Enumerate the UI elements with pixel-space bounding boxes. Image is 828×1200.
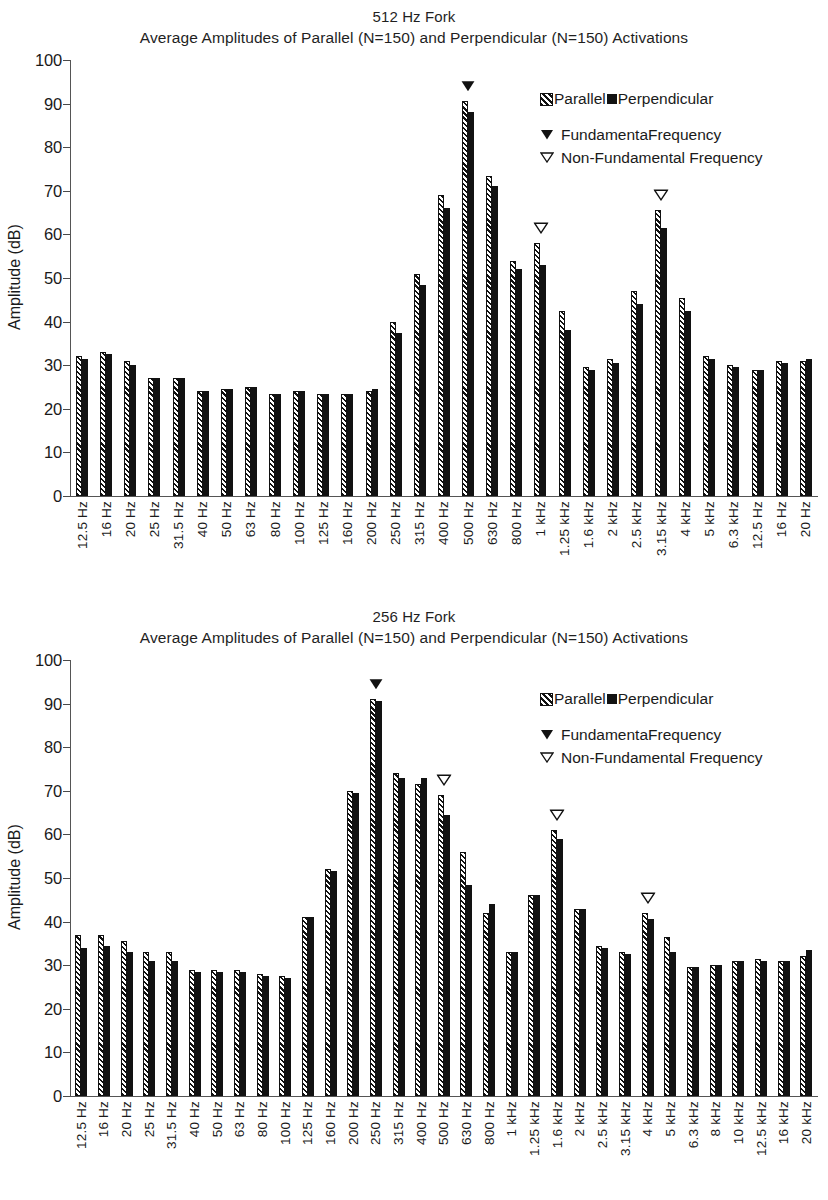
bar-perpendicular[interactable] — [444, 815, 450, 1096]
bar-group — [770, 60, 794, 496]
x-tick-cell: 315 Hz — [408, 501, 432, 556]
bar-perpendicular[interactable] — [806, 359, 812, 496]
bar-perpendicular[interactable] — [602, 948, 608, 1096]
bar-perpendicular[interactable] — [203, 391, 209, 496]
bar-perpendicular[interactable] — [540, 265, 546, 496]
bar-group — [387, 660, 410, 1096]
bar-perpendicular[interactable] — [127, 952, 133, 1096]
bar-group — [408, 60, 432, 496]
x-tick-cell: 4 kHz — [636, 1101, 659, 1156]
bar-perpendicular[interactable] — [733, 367, 739, 496]
fundamental-frequency-marker-icon — [461, 80, 476, 92]
bar-perpendicular[interactable] — [172, 961, 178, 1096]
bar-group — [70, 60, 94, 496]
bar-perpendicular[interactable] — [512, 952, 518, 1096]
bar-perpendicular[interactable] — [263, 976, 269, 1096]
bar-perpendicular[interactable] — [285, 978, 291, 1096]
bar-perpendicular[interactable] — [106, 354, 112, 496]
bar-perpendicular[interactable] — [589, 370, 595, 496]
bar-perpendicular[interactable] — [613, 363, 619, 496]
y-tick-mark — [63, 1009, 70, 1010]
bar-perpendicular[interactable] — [195, 972, 201, 1096]
bar-perpendicular[interactable] — [353, 793, 359, 1096]
x-tick-label: 200 Hz — [364, 501, 379, 545]
x-tick-label: 125 Hz — [300, 1101, 315, 1145]
bar-group — [342, 660, 365, 1096]
x-tick-cell: 1.25 kHz — [523, 1101, 546, 1156]
x-tick-label: 20 Hz — [119, 1101, 134, 1137]
bar-perpendicular[interactable] — [331, 871, 337, 1096]
y-tick-label: 80 — [20, 738, 62, 757]
bar-group — [70, 660, 93, 1096]
bar-perpendicular[interactable] — [154, 378, 160, 496]
bar-perpendicular[interactable] — [761, 961, 767, 1096]
x-tick-label: 8 kHz — [708, 1101, 723, 1137]
bar-perpendicular[interactable] — [758, 370, 764, 496]
x-tick-cell: 12.5 Hz — [746, 501, 770, 556]
bar-perpendicular[interactable] — [149, 961, 155, 1096]
perpendicular-swatch-icon — [607, 694, 617, 704]
bar-perpendicular[interactable] — [275, 394, 281, 496]
bar-perpendicular[interactable] — [648, 919, 654, 1096]
bar-perpendicular[interactable] — [784, 961, 790, 1096]
bar-perpendicular[interactable] — [806, 950, 812, 1096]
x-tick-label: 2.5 kHz — [595, 1101, 610, 1148]
bar-perpendicular[interactable] — [421, 778, 427, 1096]
bar-perpendicular[interactable] — [565, 330, 571, 496]
x-tick-label: 16 Hz — [96, 1101, 111, 1137]
bar-perpendicular[interactable] — [227, 389, 233, 496]
bar-perpendicular[interactable] — [782, 363, 788, 496]
bar-perpendicular[interactable] — [466, 885, 472, 1096]
bar-perpendicular[interactable] — [534, 895, 540, 1096]
bar-perpendicular[interactable] — [82, 359, 88, 496]
x-tick-cell: 40 Hz — [183, 1101, 206, 1156]
bar-perpendicular[interactable] — [738, 961, 744, 1096]
bar-perpendicular[interactable] — [625, 954, 631, 1096]
bar-perpendicular[interactable] — [251, 387, 257, 496]
bar-perpendicular[interactable] — [376, 701, 382, 1096]
bar-perpendicular[interactable] — [709, 359, 715, 496]
non-fundamental-triangle-icon — [540, 752, 554, 763]
bar-perpendicular[interactable] — [557, 839, 563, 1096]
bar-perpendicular[interactable] — [396, 333, 402, 497]
bar-perpendicular[interactable] — [516, 269, 522, 496]
bar-group — [311, 60, 335, 496]
bar-perpendicular[interactable] — [81, 948, 87, 1096]
x-tick-label: 25 Hz — [142, 1101, 157, 1137]
non-fundamental-frequency-marker-icon — [641, 892, 656, 904]
bar-perpendicular[interactable] — [489, 904, 495, 1096]
x-tick-cell: 100 Hz — [274, 1101, 297, 1156]
bar-perpendicular[interactable] — [179, 378, 185, 496]
x-tick-cell: 80 Hz — [251, 1101, 274, 1156]
x-tick-label: 12.5 kHz — [754, 1101, 769, 1156]
bar-perpendicular[interactable] — [240, 972, 246, 1096]
bar-perpendicular[interactable] — [468, 112, 474, 496]
bar-perpendicular[interactable] — [693, 967, 699, 1096]
bar-perpendicular[interactable] — [716, 965, 722, 1096]
bar-perpendicular[interactable] — [492, 186, 498, 496]
fundamental-frequency-marker-icon — [369, 678, 384, 690]
bar-perpendicular[interactable] — [308, 917, 314, 1096]
bar-perpendicular[interactable] — [670, 952, 676, 1096]
bar-perpendicular[interactable] — [323, 394, 329, 496]
x-tick-cell: 2 kHz — [568, 1101, 591, 1156]
bar-perpendicular[interactable] — [685, 311, 691, 496]
bar-perpendicular[interactable] — [299, 391, 305, 496]
bar-perpendicular[interactable] — [104, 946, 110, 1096]
x-tick-label: 20 kHz — [799, 1101, 814, 1144]
bar-perpendicular[interactable] — [399, 778, 405, 1096]
perpendicular-swatch-icon — [607, 94, 617, 104]
bar-perpendicular[interactable] — [444, 208, 450, 496]
x-tick-label: 16 Hz — [99, 501, 114, 537]
chart-1-plot: Amplitude (dB)010203040506070809010012.5… — [0, 48, 828, 608]
bar-perpendicular[interactable] — [637, 304, 643, 496]
bar-perpendicular[interactable] — [580, 909, 586, 1096]
bar-perpendicular[interactable] — [130, 365, 136, 496]
bar-perpendicular[interactable] — [217, 972, 223, 1096]
bar-perpendicular[interactable] — [420, 285, 426, 496]
x-tick-cell: 500 Hz — [433, 1101, 456, 1156]
legend-row-non-fundamental: Non-Fundamental Frequency — [540, 746, 763, 769]
bar-perpendicular[interactable] — [661, 228, 667, 496]
bar-perpendicular[interactable] — [347, 394, 353, 496]
bar-perpendicular[interactable] — [372, 389, 378, 496]
